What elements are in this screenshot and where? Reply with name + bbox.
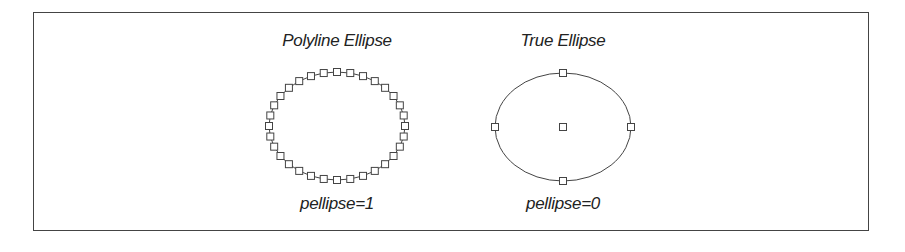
true-ellipse-title: True Ellipse <box>521 31 606 51</box>
grip-square-icon <box>334 69 341 76</box>
grip-square-icon <box>285 84 292 91</box>
grip-square-icon <box>360 73 367 80</box>
polyline-ellipse-caption: pellipse=1 <box>300 194 374 214</box>
grip-square-icon <box>347 175 354 182</box>
grip-square-icon <box>296 78 303 85</box>
grip-square-icon <box>320 175 327 182</box>
grip-square-icon <box>400 112 407 119</box>
grip-square-icon <box>320 70 327 77</box>
grip-square-icon <box>277 92 284 99</box>
grip-square-icon <box>277 153 284 160</box>
ellipse-diagram <box>0 0 905 252</box>
grip-square-icon <box>271 143 278 150</box>
grip-square-icon <box>560 178 567 185</box>
true-ellipse <box>492 70 635 185</box>
grip-square-icon <box>266 123 273 130</box>
grip-square-icon <box>402 123 409 130</box>
grip-square-icon <box>296 167 303 174</box>
grip-square-icon <box>271 102 278 109</box>
grip-square-icon <box>396 143 403 150</box>
polyline-ellipse <box>266 69 409 184</box>
grip-square-icon <box>560 124 567 131</box>
grip-square-icon <box>371 167 378 174</box>
grip-square-icon <box>390 92 397 99</box>
grip-square-icon <box>347 70 354 77</box>
grip-square-icon <box>285 161 292 168</box>
true-ellipse-caption: pellipse=0 <box>526 194 600 214</box>
grip-square-icon <box>382 161 389 168</box>
grip-square-icon <box>628 124 635 131</box>
polyline-ellipse-title: Polyline Ellipse <box>282 31 392 51</box>
grip-square-icon <box>334 177 341 184</box>
grip-square-icon <box>382 84 389 91</box>
grip-square-icon <box>400 133 407 140</box>
grip-square-icon <box>390 153 397 160</box>
grip-square-icon <box>560 70 567 77</box>
grip-square-icon <box>492 124 499 131</box>
grip-square-icon <box>396 102 403 109</box>
grip-square-icon <box>307 172 314 179</box>
grip-square-icon <box>307 73 314 80</box>
grip-square-icon <box>267 133 274 140</box>
grip-square-icon <box>360 172 367 179</box>
grip-square-icon <box>267 112 274 119</box>
grip-square-icon <box>371 78 378 85</box>
